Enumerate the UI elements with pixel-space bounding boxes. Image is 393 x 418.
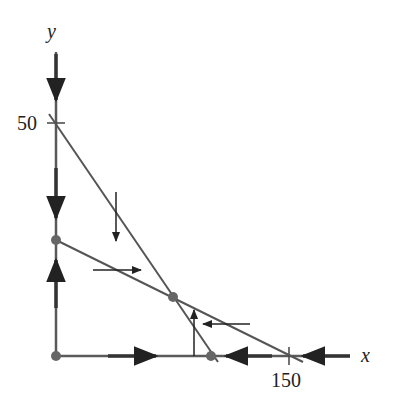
equilibria [51,235,216,361]
y-tick-label: 50 [17,112,37,134]
equilibrium-origin [51,351,61,361]
phase-diagram: y x 50 150 [0,0,393,418]
x-axis-label: x [360,344,370,366]
axis-arrows [56,54,350,356]
axes [47,52,350,365]
x-tick-label: 150 [271,369,301,391]
equilibrium-interior [168,292,178,302]
equilibrium-y-intercept [51,235,61,245]
equilibrium-x-intercept [206,351,216,361]
isoclines [49,114,303,362]
isocline-2 [56,240,303,362]
region-arrows [93,192,250,356]
y-axis-label: y [45,20,56,43]
isocline-1 [49,114,218,362]
